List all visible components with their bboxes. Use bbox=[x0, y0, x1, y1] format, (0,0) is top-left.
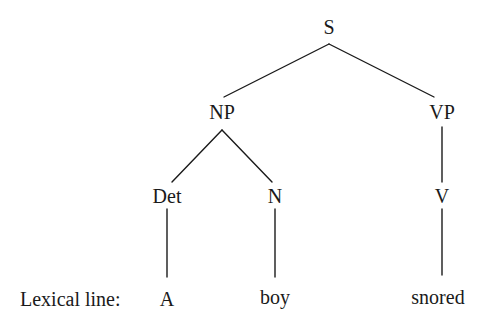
edge-np-n bbox=[222, 130, 272, 182]
tree-edges bbox=[0, 0, 489, 323]
word-a: A bbox=[160, 289, 174, 309]
syntax-tree-diagram: S NP VP Det N V Lexical line: A boy snor… bbox=[0, 0, 489, 323]
lexical-line-label: Lexical line: bbox=[20, 289, 121, 309]
node-n: N bbox=[268, 186, 282, 206]
edge-s-vp bbox=[329, 44, 434, 97]
node-s: S bbox=[323, 17, 334, 37]
word-boy: boy bbox=[260, 287, 290, 307]
node-det: Det bbox=[153, 186, 182, 206]
word-snored: snored bbox=[411, 287, 464, 307]
edge-s-np bbox=[224, 44, 329, 97]
edge-np-det bbox=[172, 130, 222, 182]
node-v: V bbox=[435, 186, 449, 206]
node-np: NP bbox=[209, 102, 235, 122]
node-vp: VP bbox=[429, 102, 455, 122]
